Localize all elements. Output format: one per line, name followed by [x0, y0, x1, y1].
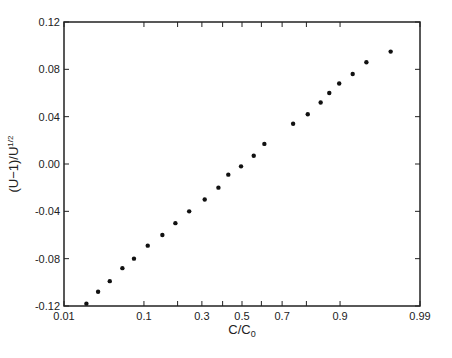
x-axis-tick-labels: 0.010.10.30.50.70.90.99: [53, 310, 430, 322]
x-tick-label: 0.7: [274, 310, 289, 322]
y-tick-label: -0.12: [35, 300, 60, 312]
data-point: [226, 172, 230, 176]
y-tick-label: 0.12: [39, 16, 60, 28]
y-tick-label: 0.08: [39, 63, 60, 75]
y-tick-label: 0.04: [39, 111, 60, 123]
data-point: [262, 142, 266, 146]
data-point: [318, 100, 322, 104]
data-point: [252, 154, 256, 158]
y-tick-label: -0.08: [35, 253, 60, 265]
data-point: [173, 221, 177, 225]
data-point: [160, 233, 164, 237]
y-axis-tick-labels: 0.120.080.040.00-0.04-0.08-0.12: [35, 16, 60, 312]
x-axis-title-main: C/C: [228, 322, 250, 337]
data-point: [203, 197, 207, 201]
data-point: [216, 185, 220, 189]
data-point: [327, 91, 331, 95]
data-point: [239, 164, 243, 168]
data-point: [350, 72, 354, 76]
y-axis-title-superscript: 1/2: [6, 135, 15, 147]
data-point: [108, 279, 112, 283]
data-point: [96, 290, 100, 294]
data-point: [146, 243, 150, 247]
x-axis-ticks: [64, 22, 420, 306]
data-point: [306, 112, 310, 116]
data-point: [388, 49, 392, 53]
data-point: [291, 122, 295, 126]
x-tick-label: 0.99: [409, 310, 430, 322]
data-points: [84, 49, 393, 305]
x-tick-label: 0.1: [136, 310, 151, 322]
x-axis-title: C/C0: [228, 322, 255, 339]
data-point: [132, 256, 136, 260]
x-tick-label: 0.3: [194, 310, 209, 322]
y-axis-title-main: (U−1)/U: [6, 147, 21, 193]
x-axis-title-subscript: 0: [251, 329, 256, 339]
data-point: [187, 209, 191, 213]
y-tick-label: -0.04: [35, 205, 60, 217]
data-point: [337, 81, 341, 85]
y-tick-label: 0.00: [39, 158, 60, 170]
y-axis-title: (U−1)/U1/2: [6, 135, 21, 193]
data-point: [364, 60, 368, 64]
x-tick-label: 0.9: [332, 310, 347, 322]
plot-frame: [64, 22, 420, 306]
data-point: [84, 301, 88, 305]
scatter-chart: 0.010.10.30.50.70.90.99 0.120.080.040.00…: [0, 0, 452, 358]
y-axis-ticks: [64, 22, 420, 306]
x-tick-label: 0.5: [234, 310, 249, 322]
data-point: [120, 266, 124, 270]
